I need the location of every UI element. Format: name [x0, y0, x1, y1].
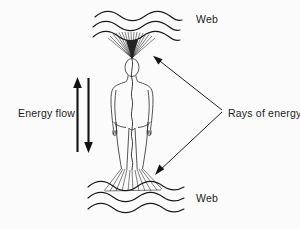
bottom-rays-fan [104, 169, 162, 191]
top-web-waves [93, 12, 182, 41]
bottom-web-waves [88, 182, 184, 213]
label-web-top: Web [196, 14, 218, 25]
pointer-to-bottom-rays [155, 112, 222, 175]
top-rays-fan [108, 32, 155, 59]
downward-energy-arrow [84, 78, 93, 153]
pointer-to-top-rays [153, 56, 222, 110]
human-figure-outline [111, 59, 153, 171]
label-energy-flow: Energy flow [18, 108, 75, 119]
energy-flow-diagram: Web Web Energy flow Rays of energy [0, 0, 300, 229]
label-web-bottom: Web [196, 193, 218, 204]
label-rays-of-energy: Rays of energy [228, 108, 300, 119]
